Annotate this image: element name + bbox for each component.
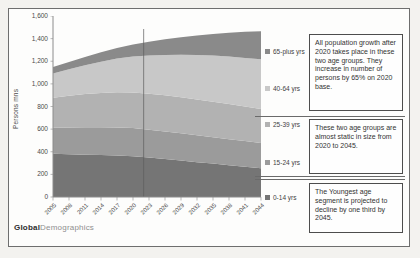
- legend-swatch-15-24-icon: [265, 160, 270, 165]
- legend-swatch-25-39-icon: [265, 122, 270, 127]
- y-tick-label: 200: [11, 170, 48, 178]
- legend-label: 25-39 yrs: [273, 121, 300, 128]
- logo-bold-part: Global: [14, 223, 40, 232]
- legend-item-25-39: 25-39 yrs: [265, 121, 300, 128]
- x-tick-label: 2005: [44, 202, 58, 216]
- divider-line-2: [255, 176, 405, 177]
- y-tick-label: 1,200: [11, 57, 48, 65]
- y-tick-label: 800: [11, 103, 48, 111]
- plot-svg: [50, 16, 264, 205]
- y-tick-label: 400: [11, 148, 48, 156]
- y-tick-label: 1,400: [11, 35, 48, 43]
- y-tick-label: 0: [11, 193, 48, 201]
- y-tick-label: 1,000: [11, 80, 48, 88]
- legend-label: 40-64 yrs: [273, 85, 300, 92]
- legend-swatch-65-plus-icon: [265, 49, 270, 54]
- legend-item-40-64: 40-64 yrs: [265, 85, 300, 92]
- legend-item-15-24: 15-24 yrs: [265, 159, 300, 166]
- legend-swatch-40-64-icon: [265, 86, 270, 91]
- annotation-box-youngest: The Youngest age segment is projected to…: [309, 183, 403, 233]
- legend-label: 0-14 yrs: [273, 194, 296, 201]
- annotation-box-static: These two age groups are almost static i…: [309, 119, 403, 174]
- divider-line-1: [255, 116, 405, 117]
- chart-frame: Persons mns 1,6001,4001,2001,00080060040…: [8, 8, 410, 247]
- y-tick-label: 1,600: [11, 12, 48, 20]
- divider-line-2b: [255, 179, 405, 180]
- legend-item-0-14: 0-14 yrs: [265, 194, 296, 201]
- logo-light-part: Demographics: [40, 223, 94, 232]
- legend-swatch-0-14-icon: [265, 195, 270, 200]
- legend-label: 15-24 yrs: [273, 159, 300, 166]
- y-tick-label: 600: [11, 125, 48, 133]
- annotation-box-growth: All population growth after 2020 takes p…: [309, 34, 403, 111]
- legend-label: 65-plus yrs: [273, 48, 305, 55]
- global-demographics-logo: GlobalDemographics: [14, 223, 94, 232]
- legend-item-65-plus: 65-plus yrs: [265, 48, 305, 55]
